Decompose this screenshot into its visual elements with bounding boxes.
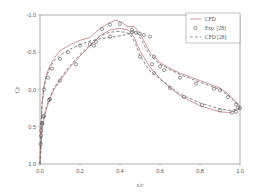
y-tick-label: 0.0 — [28, 87, 36, 93]
exp-data-point — [194, 82, 197, 85]
x-axis-title: x/c — [136, 182, 144, 188]
exp-data-point — [142, 34, 145, 37]
y-tick-label: 0.5 — [28, 124, 36, 130]
exp-data-point — [100, 28, 103, 31]
legend-cfd28-label: CFD [28] — [205, 34, 226, 40]
legend: CFD Exp. [28] CFD [28] — [186, 13, 240, 43]
exp-data-point — [162, 69, 165, 72]
exp-data-point — [108, 23, 111, 26]
y-tick-label: -0.5 — [27, 49, 36, 55]
y-tick-label: 1.0 — [28, 161, 36, 167]
exp-data-point — [150, 63, 153, 66]
exp-data-point — [46, 76, 49, 79]
exp-data-point — [148, 35, 151, 38]
y-axis-title: Cp — [14, 86, 20, 93]
exp-data-point — [74, 63, 77, 66]
exp-data-point — [118, 22, 121, 25]
x-tick-label: 0.4 — [116, 168, 124, 174]
exp-data-point — [178, 76, 181, 79]
exp-data-point — [92, 44, 95, 47]
exp-data-point — [58, 57, 61, 60]
cfd-lower-curve — [40, 28, 240, 164]
y-axis-ticks: -1.0-0.50.00.51.0 — [27, 12, 40, 167]
x-tick-label: 0.0 — [36, 168, 44, 174]
legend-cfd-label: CFD — [205, 16, 216, 22]
x-tick-label: 0.6 — [156, 168, 164, 174]
x-axis-ticks: 0.00.20.40.60.81.0 — [36, 164, 244, 174]
x-tick-label: 0.8 — [196, 168, 204, 174]
exp-data-point — [158, 65, 161, 68]
cp-distribution-chart: 0.00.20.40.60.81.0 -1.0-0.50.00.51.0 x/c… — [0, 0, 255, 196]
legend-exp-label: Exp. [28] — [205, 25, 226, 31]
exp-data-point — [234, 110, 237, 113]
y-tick-label: -1.0 — [27, 12, 36, 18]
exp-data-point — [50, 67, 53, 70]
x-tick-label: 0.2 — [76, 168, 84, 174]
x-tick-label: 1.0 — [236, 168, 244, 174]
